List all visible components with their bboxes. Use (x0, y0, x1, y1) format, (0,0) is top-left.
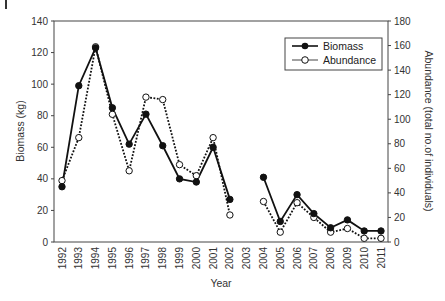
point-biomass (378, 228, 384, 234)
series-layer (59, 44, 384, 242)
y2-tick-label: 140 (394, 65, 411, 76)
point-abundance (210, 134, 216, 140)
point-biomass (277, 218, 283, 224)
y2-tick-label: 40 (394, 187, 406, 198)
y-tick-label: 120 (31, 47, 48, 58)
y2-tick-label: 0 (394, 237, 400, 248)
legend-biomass-marker (302, 43, 309, 50)
x-tick-label: 2007 (308, 247, 319, 270)
y2-tick-label: 20 (394, 212, 406, 223)
x-tick-label: 2009 (342, 247, 353, 270)
point-biomass (109, 105, 115, 111)
point-biomass (143, 111, 149, 117)
point-abundance (76, 134, 82, 140)
point-abundance (361, 235, 367, 241)
point-biomass (176, 176, 182, 182)
corner-mark (5, 0, 7, 9)
x-tick-label: 1992 (57, 247, 68, 270)
x-tick-label: 2008 (325, 247, 336, 270)
point-biomass (344, 217, 350, 223)
point-abundance (126, 168, 132, 174)
x-tick-label: 2002 (224, 247, 235, 270)
point-biomass (294, 191, 300, 197)
point-biomass (361, 228, 367, 234)
x-tick-label: 1997 (140, 247, 151, 270)
x-axis: 1992199319941995199619971998199920002001… (57, 247, 387, 270)
left-axis: 020406080100120140 (31, 16, 54, 248)
point-abundance (176, 161, 182, 167)
x-tick-label: 2006 (292, 247, 303, 270)
point-abundance (143, 94, 149, 100)
y-tick-label: 0 (42, 237, 48, 248)
point-abundance (193, 173, 199, 179)
point-abundance (344, 225, 350, 231)
point-biomass (160, 143, 166, 149)
chart: 020406080100120140 020406080100120140160… (0, 0, 445, 301)
point-biomass (327, 225, 333, 231)
x-tick-label: 2005 (275, 247, 286, 270)
x-tick-label: 2000 (191, 247, 202, 270)
x-tick-label: 1996 (124, 247, 135, 270)
y-tick-label: 40 (37, 173, 49, 184)
y2-tick-label: 60 (394, 163, 406, 174)
point-abundance (277, 229, 283, 235)
point-abundance (59, 177, 65, 183)
x-tick-label: 2001 (208, 247, 219, 270)
point-abundance (260, 198, 266, 204)
point-biomass (311, 210, 317, 216)
x-axis-label: Year (210, 277, 232, 289)
point-abundance (227, 212, 233, 218)
point-biomass (210, 144, 216, 150)
y2-tick-label: 120 (394, 89, 411, 100)
point-abundance (378, 235, 384, 241)
x-tick-label: 2011 (376, 247, 387, 269)
point-abundance (294, 200, 300, 206)
y-tick-label: 140 (31, 16, 48, 27)
point-abundance (160, 96, 166, 102)
y2-tick-label: 80 (394, 138, 406, 149)
series-line-biomass (62, 48, 230, 200)
x-tick-label: 2003 (241, 247, 252, 270)
y2-axis-label: Abundance (total no.of individuals) (423, 50, 435, 211)
x-tick-label: 1994 (90, 247, 101, 270)
x-tick-label: 2004 (258, 247, 269, 270)
legend-abundance-marker (302, 57, 309, 64)
point-biomass (260, 174, 266, 180)
x-tick-label: 2010 (359, 247, 370, 270)
y2-tick-label: 180 (394, 16, 411, 27)
y-tick-label: 60 (37, 142, 49, 153)
x-tick-label: 1993 (73, 247, 84, 270)
legend: Biomass Abundance (285, 38, 382, 70)
point-biomass (193, 179, 199, 185)
point-biomass (59, 184, 65, 190)
point-biomass (126, 141, 132, 147)
point-biomass (227, 196, 233, 202)
right-axis: 020406080100120140160180 (388, 16, 411, 248)
y-tick-label: 100 (31, 79, 48, 90)
x-tick-label: 1995 (107, 247, 118, 270)
y-tick-label: 20 (37, 205, 49, 216)
legend-biomass-label: Biomass (323, 40, 363, 52)
series-line-abundance (62, 47, 230, 215)
y2-tick-label: 160 (394, 40, 411, 51)
point-abundance (109, 111, 115, 117)
x-tick-label: 1999 (174, 247, 185, 270)
legend-abundance-label: Abundance (323, 54, 376, 66)
point-biomass (92, 45, 98, 51)
x-tick-label: 1998 (157, 247, 168, 270)
y-tick-label: 80 (37, 110, 49, 121)
point-biomass (76, 83, 82, 89)
y-axis-label: Biomass (kg) (14, 100, 26, 161)
y2-tick-label: 100 (394, 114, 411, 125)
